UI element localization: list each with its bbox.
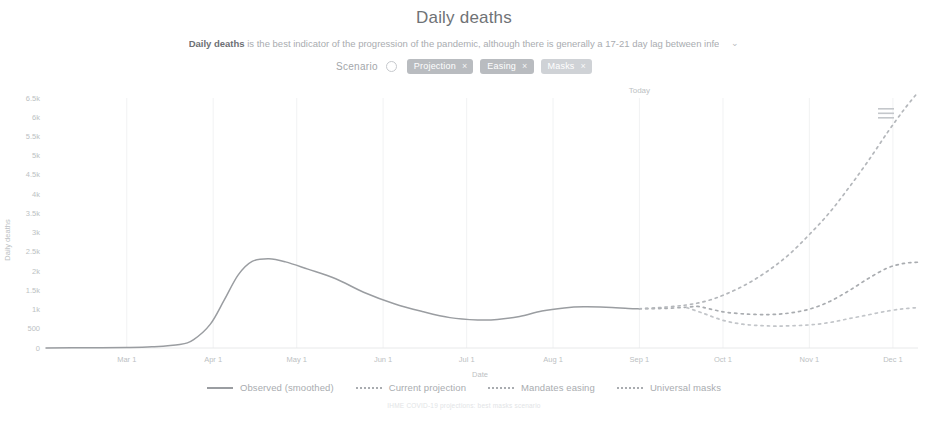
svg-text:6.5k: 6.5k [26, 94, 40, 103]
footer-note: IHME COVID-19 projections: best masks sc… [0, 402, 928, 409]
svg-text:3.5k: 3.5k [26, 209, 40, 218]
x-axis-title: Date [472, 370, 488, 379]
daily-deaths-line-chart: 05001k1.5k2k2.5k3k3.5k4k4.5k5k5.5k6k6.5k… [0, 80, 928, 380]
subtitle-row: Daily deaths is the best indicator of th… [0, 38, 928, 50]
legend-item-observed[interactable]: Observed (smoothed) [207, 382, 334, 393]
chart-series [46, 93, 918, 349]
svg-text:Today: Today [629, 86, 650, 95]
svg-text:1k: 1k [32, 305, 40, 314]
scenario-chip-projection[interactable]: Projection × [407, 59, 474, 74]
svg-text:500: 500 [27, 325, 40, 334]
today-marker: Today [629, 86, 650, 95]
svg-text:May 1: May 1 [287, 355, 307, 364]
chart-area: 05001k1.5k2k2.5k3k3.5k4k4.5k5k5.5k6k6.5k… [0, 80, 928, 380]
legend-item-mandates-easing[interactable]: Mandates easing [488, 382, 595, 393]
svg-text:2.5k: 2.5k [26, 248, 40, 257]
series-line-mandates-easing [639, 93, 918, 310]
hamburger-menu-icon[interactable] [878, 108, 894, 119]
legend-swatch-mandates-easing [488, 387, 514, 389]
svg-text:4.5k: 4.5k [26, 171, 40, 180]
svg-text:3k: 3k [32, 228, 40, 237]
chart-gridlines [46, 98, 918, 348]
svg-text:Aug 1: Aug 1 [543, 355, 563, 364]
chart-description-bold: Daily deaths [189, 38, 245, 49]
svg-text:4k: 4k [32, 190, 40, 199]
y-axis-tick-labels: 05001k1.5k2k2.5k3k3.5k4k4.5k5k5.5k6k6.5k [26, 94, 40, 353]
scenario-chip-masks-label: Masks [548, 62, 575, 71]
scenario-chip-projection-label: Projection [414, 62, 456, 71]
x-axis-tick-labels: Mar 1Apr 1May 1Jun 1Jul 1Aug 1Sep 1Oct 1… [117, 355, 903, 364]
chart-description-rest: is the best indicator of the progression… [245, 38, 720, 49]
series-line-observed-smoothed [46, 259, 639, 348]
chart-legend: Observed (smoothed) Current projection M… [0, 382, 928, 393]
svg-text:0: 0 [36, 344, 40, 353]
chevron-down-icon[interactable]: ⌄ [731, 38, 739, 50]
scenario-chip-easing-label: Easing [487, 62, 516, 71]
legend-label-universal-masks: Universal masks [650, 382, 721, 393]
svg-text:Jul 1: Jul 1 [459, 355, 475, 364]
close-icon[interactable]: × [581, 62, 586, 71]
svg-text:6k: 6k [32, 113, 40, 122]
scenario-chip-easing[interactable]: Easing × [480, 59, 533, 74]
legend-label-current-projection: Current projection [389, 382, 466, 393]
scenario-chip-masks[interactable]: Masks × [541, 59, 592, 74]
legend-label-observed: Observed (smoothed) [240, 382, 334, 393]
svg-text:Jun 1: Jun 1 [374, 355, 392, 364]
series-line-universal-masks [687, 308, 918, 327]
legend-swatch-universal-masks [617, 387, 643, 389]
svg-text:Nov 1: Nov 1 [800, 355, 820, 364]
svg-text:2k: 2k [32, 267, 40, 276]
legend-swatch-observed [207, 387, 233, 389]
legend-item-current-projection[interactable]: Current projection [356, 382, 466, 393]
chart-description: Daily deaths is the best indicator of th… [189, 38, 720, 50]
legend-label-mandates-easing: Mandates easing [521, 382, 595, 393]
svg-text:5k: 5k [32, 152, 40, 161]
close-icon[interactable]: × [462, 62, 467, 71]
daily-deaths-chart-page: Daily deaths Daily deaths is the best in… [0, 8, 928, 446]
svg-text:Sep 1: Sep 1 [630, 355, 650, 364]
info-icon[interactable] [386, 61, 397, 72]
close-icon[interactable]: × [522, 62, 527, 71]
y-axis-title: Daily deaths [3, 219, 12, 261]
page-title: Daily deaths [0, 8, 928, 28]
scenario-controls: Scenario Projection × Easing × Masks × [0, 59, 928, 74]
legend-swatch-current-projection [356, 387, 382, 389]
svg-text:5.5k: 5.5k [26, 132, 40, 141]
series-line-current-projection [639, 263, 918, 315]
svg-text:Mar 1: Mar 1 [117, 355, 136, 364]
svg-text:Dec 1: Dec 1 [883, 355, 903, 364]
svg-text:Oct 1: Oct 1 [714, 355, 732, 364]
svg-text:1.5k: 1.5k [26, 286, 40, 295]
scenario-label: Scenario [336, 61, 378, 72]
legend-item-universal-masks[interactable]: Universal masks [617, 382, 721, 393]
svg-text:Apr 1: Apr 1 [204, 355, 222, 364]
